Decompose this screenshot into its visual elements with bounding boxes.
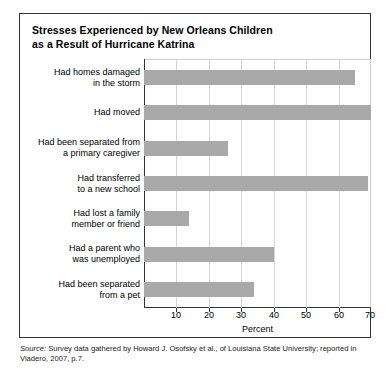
bar-parent-unemployed [144,247,274,262]
x-axis-ticks: 10 20 30 40 50 60 70 [144,308,371,324]
bar-separated-caregiver [144,141,228,156]
plot-area [144,59,371,308]
bar-separated-pet [144,282,254,297]
category-label: Had been separated from a primary caregi… [18,137,140,159]
source-text: Survey data gathered by Howard J. Osofsk… [20,344,356,363]
source-note: Source: Survey data gathered by Howard J… [20,344,372,364]
tick-label-40: 40 [261,310,287,320]
source-prefix: Source: [20,344,46,353]
tick-label-10: 10 [163,310,189,320]
category-label: Had moved [18,107,140,118]
tick-label-50: 50 [293,310,319,320]
tick-label-20: 20 [196,310,222,320]
bar-lost-family-member [144,211,189,226]
category-label: Had been separated from a pet [18,279,140,301]
chart-title: Stresses Experienced by New Orleans Chil… [32,23,273,51]
bar-had-moved [144,105,371,120]
tick-label-30: 30 [228,310,254,320]
category-label: Had transferred to a new school [18,173,140,195]
bar-transferred-school [144,176,368,191]
chart-panel: Stresses Experienced by New Orleans Chil… [19,13,371,338]
bar-homes-damaged [144,70,355,85]
plot-right-border [370,59,371,308]
x-axis-title: Percent [144,324,371,334]
plot-top-border [144,59,371,60]
tick-label-60: 60 [326,310,352,320]
category-label: Had lost a family member or friend [18,208,140,230]
category-label: Had homes damaged in the storm [18,67,140,89]
category-label: Had a parent who was unemployed [18,243,140,265]
tick-label-70: 70 [357,310,383,320]
category-axis-labels: Had homes damaged in the storm Had moved… [20,59,140,308]
